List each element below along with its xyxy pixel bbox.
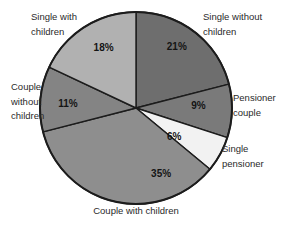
- slice-label-pensioner-couple: Pensioner couple: [233, 91, 282, 120]
- slice-label-single-with-children: Single with children: [31, 10, 103, 39]
- pie-percent-2: 6%: [167, 131, 182, 142]
- pie-percent-5: 18%: [94, 42, 114, 53]
- pie-percent-1: 9%: [191, 100, 206, 111]
- slice-label-couple-with-children: Couple with children: [36, 204, 236, 219]
- pie-percent-4: 11%: [58, 98, 78, 109]
- pie-percent-0: 21%: [167, 41, 187, 52]
- slice-label-single-pensioner: Single pensioner: [222, 142, 277, 171]
- slice-label-single-without-children: Single without children: [203, 10, 282, 39]
- pie-chart-figure: 21%9%6%35%11%18% Single without children…: [0, 0, 282, 228]
- pie-percent-3: 35%: [151, 168, 171, 179]
- slice-label-couple-without-children: Couple without children: [11, 80, 59, 124]
